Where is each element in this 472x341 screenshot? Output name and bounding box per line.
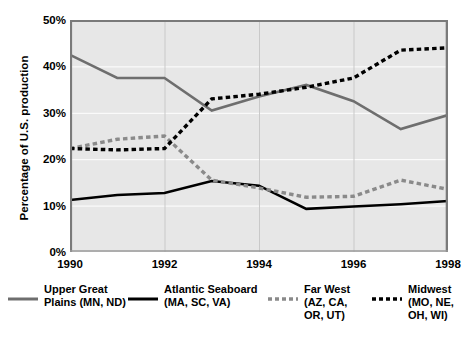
y-tick-label: 30% bbox=[26, 108, 66, 118]
legend-swatch-dashed-line-icon bbox=[268, 288, 298, 306]
line-chart: Percentage of U.S. production 0%10%20%30… bbox=[0, 0, 472, 341]
y-tick-label: 10% bbox=[26, 201, 66, 211]
legend-label: Midwest (MO, NE, OH, WI) bbox=[408, 283, 454, 322]
plot-area bbox=[70, 20, 448, 252]
legend-item[interactable]: Far West (AZ, CA, OR, UT) bbox=[268, 283, 350, 322]
x-tick-label: 1998 bbox=[418, 258, 472, 270]
chart-legend: Upper Great Plains (MN, ND)Atlantic Seab… bbox=[0, 283, 472, 341]
legend-item[interactable]: Upper Great Plains (MN, ND) bbox=[8, 283, 126, 309]
x-axis-tick-labels: 19901992199419961998 bbox=[0, 258, 472, 276]
x-tick-label: 1992 bbox=[135, 258, 195, 270]
legend-item[interactable]: Atlantic Seaboard (MA, SC, VA) bbox=[128, 283, 258, 309]
legend-item[interactable]: Midwest (MO, NE, OH, WI) bbox=[372, 283, 454, 322]
y-tick-label: 40% bbox=[26, 61, 66, 71]
legend-label: Far West (AZ, CA, OR, UT) bbox=[304, 283, 350, 322]
legend-swatch-dashed-line-icon bbox=[372, 288, 402, 306]
legend-swatch-solid-line-icon bbox=[128, 288, 158, 306]
legend-swatch-solid-line-icon bbox=[8, 288, 38, 306]
y-tick-label: 50% bbox=[26, 15, 66, 25]
plot-canvas bbox=[70, 20, 448, 252]
x-tick-label: 1994 bbox=[229, 258, 289, 270]
x-tick-label: 1990 bbox=[40, 258, 100, 270]
legend-label: Atlantic Seaboard (MA, SC, VA) bbox=[164, 283, 258, 309]
y-tick-label: 20% bbox=[26, 154, 66, 164]
x-tick-label: 1996 bbox=[324, 258, 384, 270]
legend-label: Upper Great Plains (MN, ND) bbox=[44, 283, 126, 309]
y-tick-label: 0% bbox=[26, 247, 66, 257]
